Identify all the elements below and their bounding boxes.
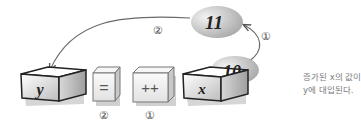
assign-step: ② <box>99 109 109 121</box>
assign-symbol: = <box>99 79 108 96</box>
note-line-1: 증가된 x의 값이 <box>303 71 361 84</box>
explanation-note: 증가된 x의 값이 y에 대입된다. <box>303 71 361 97</box>
assign-arrow-step: ② <box>153 24 163 36</box>
operator-assign: = <box>93 67 120 106</box>
result-bubble: 11 <box>191 6 243 38</box>
variable-box-y: y <box>21 67 86 106</box>
increment-symbol: ++ <box>141 79 159 96</box>
variable-box-x: 10 x <box>183 56 259 106</box>
increment-arrow <box>244 25 260 62</box>
result-value: 11 <box>205 12 223 33</box>
operator-increment: ++ <box>133 67 176 106</box>
assign-arrow <box>50 17 190 70</box>
increment-arrow-step: ① <box>261 30 271 42</box>
note-line-2: y에 대입된다. <box>303 84 361 97</box>
variable-label-x: x <box>197 81 206 97</box>
increment-step: ① <box>145 109 155 121</box>
variable-label-y: y <box>34 81 44 99</box>
